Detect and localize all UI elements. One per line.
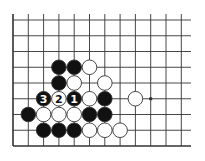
move-number-label: 1 — [70, 93, 78, 106]
white-stone — [82, 123, 97, 138]
black-stone — [67, 60, 82, 75]
black-stone — [52, 76, 67, 91]
black-stone — [98, 91, 113, 106]
star-points — [149, 97, 153, 101]
white-stone — [98, 76, 113, 91]
white-stone — [128, 91, 143, 106]
white-stone — [82, 91, 97, 106]
white-stone — [82, 60, 97, 75]
black-stone — [82, 107, 97, 122]
white-stone — [98, 123, 113, 138]
white-stone-move-2: 2 — [52, 91, 67, 106]
white-stone — [67, 107, 82, 122]
black-stone-move-3: 3 — [36, 91, 51, 106]
black-stone — [52, 123, 67, 138]
star-point — [149, 97, 153, 101]
white-stone — [52, 107, 67, 122]
white-stone — [67, 76, 82, 91]
black-stone — [67, 123, 82, 138]
white-stone — [113, 123, 128, 138]
black-stone — [52, 60, 67, 75]
go-board-diagram: 321 — [0, 0, 205, 161]
black-stone — [36, 123, 51, 138]
black-stone — [21, 107, 36, 122]
move-number-label: 2 — [55, 93, 63, 106]
white-stone — [36, 107, 51, 122]
black-stone — [98, 107, 113, 122]
black-stone-move-1: 1 — [67, 91, 82, 106]
move-number-label: 3 — [40, 93, 48, 106]
